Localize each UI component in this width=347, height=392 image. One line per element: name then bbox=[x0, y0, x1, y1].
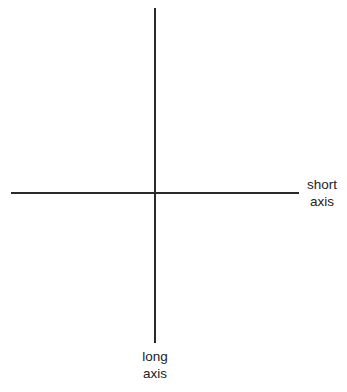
long-axis-line bbox=[154, 8, 156, 343]
axes-diagram: short axis long axis bbox=[0, 0, 347, 392]
short-axis-label: short axis bbox=[300, 176, 344, 210]
short-axis-label-line2: axis bbox=[300, 193, 344, 210]
long-axis-label-line2: axis bbox=[133, 365, 177, 382]
short-axis-line bbox=[11, 192, 299, 194]
short-axis-label-line1: short bbox=[300, 176, 344, 193]
long-axis-label-line1: long bbox=[133, 348, 177, 365]
long-axis-label: long axis bbox=[133, 348, 177, 382]
